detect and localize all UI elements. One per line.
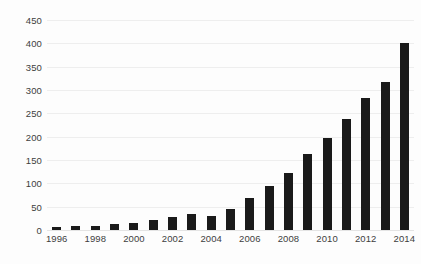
x-tick-label: 2004	[200, 233, 222, 244]
y-tick-label: 50	[31, 201, 42, 212]
x-axis: 1996199820002002200420062008201020122014	[47, 233, 414, 253]
x-tick-label: 2000	[123, 233, 145, 244]
x-tick-label: 2002	[162, 233, 184, 244]
bar	[168, 217, 177, 230]
bars-layer	[47, 20, 414, 230]
y-tick-label: 0	[37, 225, 42, 236]
bar	[303, 154, 312, 230]
x-tick-label: 2014	[394, 233, 416, 244]
y-tick-label: 200	[26, 131, 42, 142]
bar	[52, 227, 61, 230]
y-tick-label: 400	[26, 38, 42, 49]
x-tick-label: 2012	[355, 233, 377, 244]
x-tick-label: 2006	[239, 233, 261, 244]
bar	[361, 98, 370, 230]
bar	[129, 223, 138, 230]
bar	[323, 138, 332, 230]
bar	[149, 220, 158, 230]
y-axis: 050100150200250300350400450	[0, 20, 42, 230]
y-tick-label: 250	[26, 108, 42, 119]
y-tick-label: 300	[26, 85, 42, 96]
bar	[71, 226, 80, 230]
x-tick-label: 2008	[278, 233, 300, 244]
x-tick-label: 1996	[46, 233, 68, 244]
gridline	[47, 230, 414, 231]
bar	[265, 186, 274, 230]
bar	[245, 198, 254, 230]
y-tick-label: 350	[26, 61, 42, 72]
y-tick-label: 450	[26, 15, 42, 26]
bar	[207, 216, 216, 230]
y-tick-label: 150	[26, 155, 42, 166]
bar	[226, 209, 235, 230]
x-tick-label: 2010	[316, 233, 338, 244]
bar	[342, 119, 351, 230]
bar	[187, 214, 196, 230]
bar	[91, 226, 100, 230]
x-tick-label: 1998	[85, 233, 107, 244]
bar	[400, 43, 409, 230]
bar	[110, 224, 119, 230]
y-tick-label: 100	[26, 178, 42, 189]
bar	[381, 82, 390, 230]
bar-chart: 050100150200250300350400450 199619982000…	[0, 0, 421, 264]
bar	[284, 173, 293, 230]
